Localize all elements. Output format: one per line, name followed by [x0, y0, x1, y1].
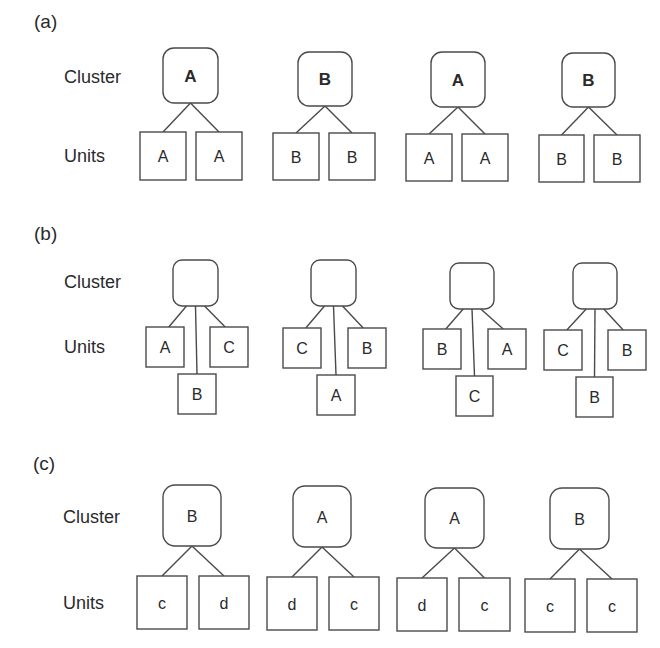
cluster-node-label: B: [319, 70, 331, 89]
tree-edge: [205, 306, 226, 327]
unit-node-label: c: [158, 595, 166, 612]
tree-edge: [429, 107, 458, 134]
cluster-tree: Bcd: [137, 485, 249, 629]
unit-node-label: B: [291, 149, 302, 166]
tree-edge: [458, 107, 485, 134]
tree-edge: [343, 306, 364, 328]
cluster-tree: AAA: [406, 52, 508, 181]
tree-edge: [446, 309, 463, 329]
cluster-tree: BBB: [273, 52, 375, 180]
panel-a: (a)ClusterUnitsAAABBBAAABBB: [34, 11, 640, 182]
tree-edge: [562, 107, 589, 135]
cluster-tree: BBB: [539, 53, 640, 182]
unit-node-label: c: [481, 597, 489, 614]
units-row-label: Units: [64, 146, 105, 166]
tree-edge: [325, 106, 352, 133]
unit-node-label: B: [612, 151, 623, 168]
tree-edge: [567, 309, 586, 330]
cluster-node-label: A: [449, 510, 460, 527]
panel-c: (c)ClusterUnitsBcdAdcAdcBcc: [33, 453, 637, 632]
unit-node-label: A: [424, 150, 435, 167]
tree-edge: [169, 306, 187, 327]
cluster-design-diagram: (a)ClusterUnitsAAABBBAAABBB(b)ClusterUni…: [0, 0, 660, 648]
unit-node-label: d: [220, 595, 229, 612]
tree-edge: [322, 547, 354, 577]
cluster-row-label: Cluster: [63, 507, 120, 527]
tree-edge: [292, 547, 322, 577]
cluster-tree: AAA: [140, 48, 242, 180]
tree-edge: [162, 546, 192, 576]
unit-node-label: c: [546, 598, 554, 615]
tree-edge: [191, 103, 220, 132]
cluster-tree: BAC: [423, 263, 526, 416]
cluster-tree: Adc: [267, 486, 379, 630]
unit-node-label: A: [480, 150, 491, 167]
unit-node-label: A: [160, 339, 171, 356]
cluster-row-label: Cluster: [64, 272, 121, 292]
unit-node-label: B: [589, 389, 600, 406]
tree-edge: [580, 549, 613, 579]
unit-node-label: B: [622, 342, 633, 359]
tree-edge: [595, 309, 596, 377]
cluster-row-label: Cluster: [64, 67, 121, 87]
panel-label: (b): [34, 223, 57, 244]
cluster-tree: ACB: [146, 260, 248, 414]
cluster-node: [450, 263, 494, 309]
tree-edge: [455, 548, 485, 578]
cluster-tree: Adc: [397, 488, 510, 631]
unit-node-label: c: [608, 598, 616, 615]
cluster-node: [173, 260, 218, 306]
cluster-tree: CBA: [283, 260, 386, 415]
panel-label: (c): [33, 453, 55, 474]
cluster-node: [573, 263, 617, 309]
unit-node-label: B: [556, 151, 567, 168]
panel-label: (a): [34, 11, 57, 32]
cluster-node-label: A: [452, 71, 464, 90]
unit-node-label: d: [288, 596, 297, 613]
tree-edge: [192, 546, 224, 576]
unit-node-label: A: [502, 341, 513, 358]
unit-node-label: A: [214, 148, 225, 165]
cluster-node-label: A: [317, 509, 328, 526]
units-row-label: Units: [64, 337, 105, 357]
cluster-node-label: B: [582, 71, 594, 90]
unit-node-label: A: [331, 387, 342, 404]
tree-edge: [163, 103, 191, 132]
units-row-label: Units: [63, 593, 104, 613]
cluster-node-label: B: [574, 511, 585, 528]
tree-edge: [481, 309, 503, 329]
cluster-tree: CBB: [544, 263, 646, 417]
cluster-node: [311, 260, 356, 306]
unit-node-label: B: [347, 149, 358, 166]
unit-node-label: A: [158, 148, 169, 165]
unit-node-label: B: [362, 340, 373, 357]
unit-node-label: c: [350, 596, 358, 613]
tree-edge: [296, 106, 325, 133]
unit-node-label: d: [418, 597, 427, 614]
cluster-node-label: A: [184, 67, 196, 86]
tree-edge: [472, 309, 475, 376]
unit-node-label: C: [469, 388, 481, 405]
tree-edge: [196, 306, 198, 374]
panel-b: (b)ClusterUnitsACBCBABACCBB: [34, 223, 646, 417]
tree-edge: [306, 306, 325, 328]
tree-edge: [589, 107, 618, 135]
cluster-node-label: B: [187, 508, 198, 525]
unit-node-label: B: [437, 341, 448, 358]
unit-node-label: C: [557, 342, 569, 359]
unit-node-label: C: [223, 339, 235, 356]
tree-edge: [422, 548, 455, 578]
tree-edge: [604, 309, 623, 330]
unit-node-label: C: [296, 340, 308, 357]
tree-edge: [550, 549, 580, 579]
cluster-tree: Bcc: [525, 488, 637, 632]
unit-node-label: B: [192, 386, 203, 403]
tree-edge: [334, 306, 337, 375]
